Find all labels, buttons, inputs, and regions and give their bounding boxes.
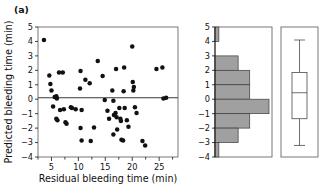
scatter-point (100, 74, 105, 79)
histogram-y-tick-label: −2 (198, 123, 210, 133)
scatter-x-tick-label: 15 (100, 162, 110, 172)
scatter-y-axis-label: Predicted bleeding time (min) (3, 21, 14, 164)
scatter-point (131, 80, 136, 85)
scatter-point (58, 108, 63, 113)
scatter-point (115, 127, 120, 132)
scatter-point (51, 104, 56, 109)
scatter-point (160, 65, 165, 70)
scatter-x-tick-label: 20 (127, 162, 137, 172)
scatter-point (87, 81, 92, 86)
scatter-y-tick-label: −3 (21, 137, 33, 147)
scatter-y-tick-label: 5 (28, 22, 33, 32)
scatter-point (134, 111, 139, 116)
scatter-point (78, 126, 83, 131)
figure-panel-a: (a) 543210−1−2−3−4 510152025 Residual bl… (0, 0, 323, 185)
histogram-bar (215, 85, 250, 99)
scatter-point (143, 143, 148, 148)
scatter-point (119, 119, 124, 124)
histogram-bar (215, 99, 269, 113)
scatter-point (130, 44, 135, 49)
histogram-y-tick-label: −4 (198, 152, 210, 162)
scatter-point (47, 73, 52, 78)
scatter-x-tick-label: 25 (154, 162, 164, 172)
histogram-bar (215, 70, 250, 84)
histogram-bar (215, 56, 238, 70)
scatter-point (107, 116, 112, 121)
scatter-point (117, 106, 122, 111)
scatter-point (125, 118, 130, 123)
scatter-point (61, 70, 66, 75)
scatter-point (126, 124, 131, 129)
scatter-point (42, 38, 47, 43)
scatter-point (55, 96, 60, 101)
scatter-point (48, 82, 53, 87)
histogram-y-tick-label: 2 (205, 65, 210, 75)
scatter-y-tick-label: 4 (28, 36, 33, 46)
scatter-x-tick-label: 10 (73, 162, 83, 172)
scatter-point (62, 107, 67, 112)
scatter-point (122, 65, 127, 70)
histogram-bar (215, 114, 250, 128)
panel-label: (a) (14, 4, 29, 15)
histogram-bar (215, 27, 219, 41)
scatter-y-tick-label: 0 (28, 94, 33, 104)
histogram-y-tick-label: 3 (205, 51, 210, 61)
scatter-point (110, 88, 115, 93)
scatter-point (79, 138, 84, 143)
histogram-bar (215, 143, 219, 157)
scatter-x-axis-label: Residual bleeding time (min) (39, 173, 177, 184)
scatter-point (111, 98, 116, 103)
boxplot-box (292, 73, 307, 119)
scatter-y-tick-label: −1 (21, 109, 33, 119)
scatter-y-tick-label: −2 (21, 123, 33, 133)
scatter-y-tick-label: 2 (28, 65, 33, 75)
scatter-point (78, 86, 83, 91)
scatter-point (140, 139, 145, 144)
scatter-point (105, 109, 110, 114)
scatter-point (131, 88, 136, 93)
scatter-point (79, 108, 84, 113)
scatter-point (111, 132, 116, 137)
histogram-y-tick-label: 4 (205, 36, 210, 46)
scatter-point (49, 88, 54, 93)
scatter-point (113, 111, 118, 116)
histogram-y-tick-label: 1 (205, 80, 210, 90)
scatter-point (78, 69, 83, 74)
scatter-point (133, 105, 138, 110)
scatter-y-tick-label: −4 (21, 152, 33, 162)
scatter-y-tick-label: 3 (28, 51, 33, 61)
scatter-point (121, 138, 126, 143)
scatter-point (164, 96, 169, 101)
histogram-y-tick-label: 0 (205, 94, 210, 104)
scatter-point (114, 67, 119, 72)
histogram-bar (215, 128, 238, 142)
scatter-y-tick-label: 1 (28, 80, 33, 90)
figure-svg: (a) 543210−1−2−3−4 510152025 Residual bl… (0, 0, 323, 185)
scatter-point (64, 122, 69, 127)
scatter-point (154, 67, 159, 72)
histogram-y-tick-label: −3 (198, 137, 210, 147)
scatter-point (73, 107, 78, 112)
scatter-x-tick-label: 5 (49, 162, 54, 172)
scatter-point (89, 139, 94, 144)
scatter-point (122, 106, 127, 111)
scatter-point (55, 118, 60, 123)
scatter-point (121, 89, 126, 94)
scatter-point (83, 77, 88, 82)
scatter-point (96, 59, 101, 64)
histogram-y-tick-label: −1 (198, 109, 210, 119)
scatter-point (92, 125, 97, 130)
scatter-point (103, 98, 108, 103)
histogram-y-tick-label: 5 (205, 22, 210, 32)
